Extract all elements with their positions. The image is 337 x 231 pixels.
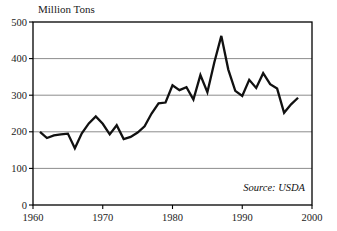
x-axis-tick-label: 2000 <box>302 212 323 223</box>
x-axis-tick-label: 1990 <box>232 212 253 223</box>
y-axis-tick-label: 500 <box>11 17 27 28</box>
y-axis-tick-label: 200 <box>11 126 27 137</box>
line-chart-plot: 0100200300400500 19601970198019902000 So… <box>0 0 337 231</box>
y-axis-tick-label: 300 <box>11 90 27 101</box>
x-axis-tick-group: 19601970198019902000 <box>23 205 323 223</box>
y-axis-tick-group: 0100200300400500 <box>11 17 33 211</box>
x-axis-tick-label: 1980 <box>162 212 183 223</box>
y-axis-tick-label: 0 <box>22 200 27 211</box>
plot-frame <box>33 22 312 205</box>
y-axis-tick-label: 100 <box>11 163 27 174</box>
x-axis-tick-label: 1960 <box>23 212 44 223</box>
gridlines-group <box>33 59 312 169</box>
chart-figure: Million Tons 0100200300400500 1960197019… <box>0 0 337 231</box>
source-annotation: Source: USDA <box>243 182 305 193</box>
x-axis-tick-label: 1970 <box>92 212 113 223</box>
y-axis-tick-label: 400 <box>11 53 27 64</box>
